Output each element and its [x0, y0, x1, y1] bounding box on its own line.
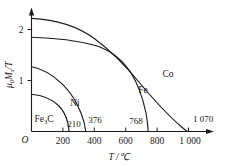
- curve-fe3c: [32, 94, 70, 131]
- x-tick-label-600: 600: [119, 136, 134, 146]
- curie-label-fe: 768: [129, 116, 143, 126]
- x-axis-title: T /℃: [108, 152, 130, 162]
- series-label-ni: Ni: [70, 98, 80, 108]
- chart-svg: 2 1 O 200 400 600 800 1 000 T /℃ μ0Ms/T …: [0, 0, 239, 166]
- curie-label-fe3c: 210: [67, 119, 81, 129]
- curie-label-co: 1 070: [193, 114, 214, 124]
- x-tick-label-1000: 1 000: [179, 136, 201, 146]
- x-axis-arrow: [206, 129, 214, 134]
- y-title-unit: /T: [4, 61, 14, 71]
- fe3c-tail: C: [47, 114, 53, 124]
- x-tick-label-400: 400: [87, 136, 102, 146]
- origin-label: O: [22, 135, 29, 145]
- x-tick-label-200: 200: [56, 136, 71, 146]
- series-label-fe: Fe: [138, 85, 148, 95]
- y-tick-label-2: 2: [19, 25, 24, 35]
- x-tick-label-800: 800: [150, 136, 165, 146]
- series-label-co: Co: [162, 69, 173, 79]
- curie-label-ni: 376: [88, 115, 102, 125]
- svg-text:μ0Ms/T: μ0Ms/T: [4, 61, 15, 89]
- y-axis-title: μ0Ms/T: [4, 61, 15, 89]
- y-axis-arrow: [29, 8, 34, 16]
- y-tick-label-1: 1: [19, 76, 24, 86]
- fe3c-main: Fe: [34, 114, 44, 124]
- magnetization-temperature-chart: 2 1 O 200 400 600 800 1 000 T /℃ μ0Ms/T …: [0, 0, 239, 166]
- series-label-fe3c: Fe3C: [34, 114, 53, 125]
- y-axis: [28, 8, 35, 132]
